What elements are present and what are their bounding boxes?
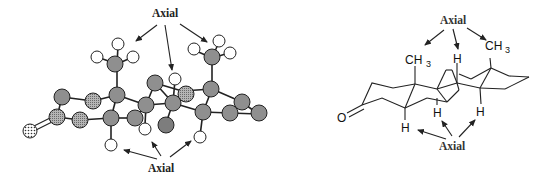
right-top-arrows [425, 28, 486, 49]
oxygen-atom [23, 124, 37, 138]
methyl-right-label: CH 3 [485, 39, 510, 55]
ball-and-stick-model: Axial Axial [23, 7, 267, 174]
svg-text:3: 3 [505, 45, 510, 55]
left-bottom-arrows [124, 141, 191, 159]
right-bottom-arrows [418, 120, 475, 139]
left-top-axial-label: Axial [152, 7, 178, 19]
steroid-axial-diagram: Axial Axial [0, 0, 554, 178]
h-bottom-1-label: H [401, 121, 410, 135]
svg-text:CH: CH [405, 53, 422, 67]
carbon-atoms [49, 49, 267, 133]
skeletal-structure: O CH 3 CH 3 H H H H Axial Axial [337, 14, 529, 152]
h-bottom-2-label: H [433, 106, 442, 120]
right-bottom-axial-label: Axial [439, 140, 465, 152]
methyl-left-label: CH 3 [405, 53, 431, 69]
svg-text:CH: CH [485, 39, 502, 53]
oxygen-label: O [337, 111, 346, 125]
svg-text:3: 3 [426, 59, 431, 69]
left-bottom-axial-label: Axial [148, 162, 174, 174]
h-bottom-3-label: H [476, 105, 485, 119]
h-top-label: H [453, 52, 462, 66]
right-top-axial-label: Axial [440, 14, 466, 26]
